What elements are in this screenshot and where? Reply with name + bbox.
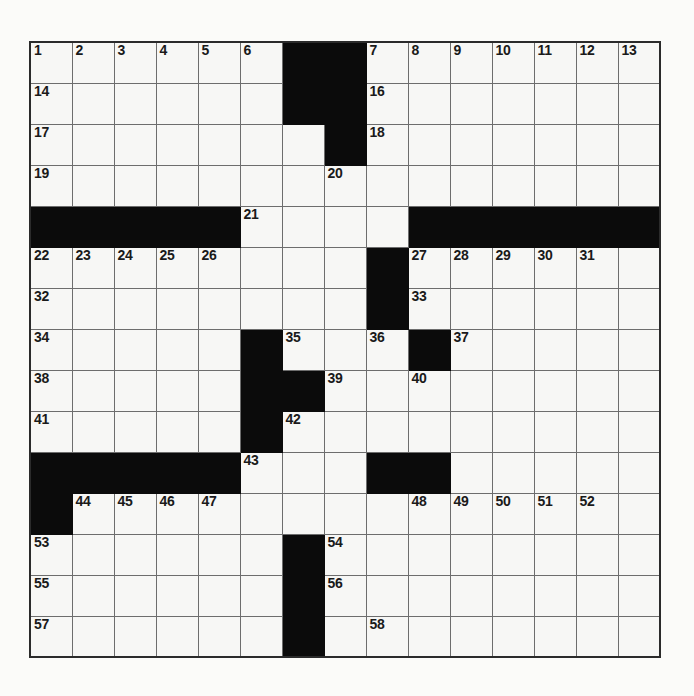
crossword-cell[interactable]	[576, 288, 618, 329]
crossword-cell[interactable]	[618, 411, 660, 452]
crossword-cell[interactable]	[534, 288, 576, 329]
crossword-cell[interactable]: 38	[30, 370, 72, 411]
crossword-cell[interactable]	[156, 329, 198, 370]
crossword-cell[interactable]	[324, 329, 366, 370]
crossword-cell[interactable]	[450, 452, 492, 493]
crossword-cell[interactable]: 47	[198, 493, 240, 534]
crossword-cell[interactable]	[156, 370, 198, 411]
crossword-cell[interactable]	[198, 329, 240, 370]
crossword-cell[interactable]	[492, 575, 534, 616]
crossword-cell[interactable]	[618, 329, 660, 370]
crossword-cell[interactable]: 50	[492, 493, 534, 534]
crossword-cell[interactable]	[450, 575, 492, 616]
crossword-cell[interactable]	[240, 616, 282, 657]
crossword-cell[interactable]	[576, 83, 618, 124]
crossword-cell[interactable]	[576, 575, 618, 616]
crossword-cell[interactable]: 6	[240, 42, 282, 83]
crossword-cell[interactable]	[324, 452, 366, 493]
crossword-cell[interactable]: 44	[72, 493, 114, 534]
crossword-cell[interactable]: 29	[492, 247, 534, 288]
crossword-cell[interactable]	[618, 452, 660, 493]
crossword-cell[interactable]	[198, 575, 240, 616]
crossword-cell[interactable]: 14	[30, 83, 72, 124]
crossword-cell[interactable]	[198, 616, 240, 657]
crossword-cell[interactable]: 8	[408, 42, 450, 83]
crossword-cell[interactable]	[72, 124, 114, 165]
crossword-cell[interactable]	[324, 616, 366, 657]
crossword-cell[interactable]	[156, 83, 198, 124]
crossword-cell[interactable]: 3	[114, 42, 156, 83]
crossword-cell[interactable]	[72, 575, 114, 616]
crossword-cell[interactable]: 35	[282, 329, 324, 370]
crossword-cell[interactable]	[618, 247, 660, 288]
crossword-cell[interactable]	[240, 124, 282, 165]
crossword-cell[interactable]	[240, 288, 282, 329]
crossword-cell[interactable]	[534, 83, 576, 124]
crossword-cell[interactable]	[618, 83, 660, 124]
crossword-cell[interactable]	[450, 288, 492, 329]
crossword-cell[interactable]	[618, 493, 660, 534]
crossword-cell[interactable]: 32	[30, 288, 72, 329]
crossword-cell[interactable]	[492, 452, 534, 493]
crossword-cell[interactable]	[114, 329, 156, 370]
crossword-cell[interactable]	[324, 288, 366, 329]
crossword-cell[interactable]	[198, 124, 240, 165]
crossword-grid[interactable]: 1234567891011121314161718192021222324252…	[29, 41, 661, 658]
crossword-cell[interactable]	[576, 124, 618, 165]
crossword-cell[interactable]	[282, 247, 324, 288]
crossword-cell[interactable]	[114, 370, 156, 411]
crossword-cell[interactable]	[408, 124, 450, 165]
crossword-cell[interactable]: 17	[30, 124, 72, 165]
crossword-cell[interactable]	[534, 165, 576, 206]
crossword-cell[interactable]	[282, 165, 324, 206]
crossword-cell[interactable]	[282, 206, 324, 247]
crossword-cell[interactable]	[366, 206, 408, 247]
crossword-cell[interactable]	[576, 370, 618, 411]
crossword-cell[interactable]	[576, 616, 618, 657]
crossword-cell[interactable]	[114, 124, 156, 165]
crossword-cell[interactable]	[114, 411, 156, 452]
crossword-cell[interactable]	[492, 329, 534, 370]
crossword-cell[interactable]: 34	[30, 329, 72, 370]
crossword-cell[interactable]	[618, 124, 660, 165]
crossword-cell[interactable]	[492, 165, 534, 206]
crossword-cell[interactable]	[198, 370, 240, 411]
crossword-cell[interactable]	[534, 452, 576, 493]
crossword-cell[interactable]: 51	[534, 493, 576, 534]
crossword-cell[interactable]: 43	[240, 452, 282, 493]
crossword-cell[interactable]	[534, 575, 576, 616]
crossword-cell[interactable]: 22	[30, 247, 72, 288]
crossword-cell[interactable]: 57	[30, 616, 72, 657]
crossword-cell[interactable]: 12	[576, 42, 618, 83]
crossword-cell[interactable]: 13	[618, 42, 660, 83]
crossword-cell[interactable]	[576, 329, 618, 370]
crossword-cell[interactable]	[114, 575, 156, 616]
crossword-cell[interactable]	[72, 165, 114, 206]
crossword-cell[interactable]	[492, 288, 534, 329]
crossword-cell[interactable]	[72, 370, 114, 411]
crossword-cell[interactable]	[408, 83, 450, 124]
crossword-cell[interactable]	[156, 575, 198, 616]
crossword-cell[interactable]	[534, 411, 576, 452]
crossword-cell[interactable]	[618, 165, 660, 206]
crossword-cell[interactable]	[114, 534, 156, 575]
crossword-cell[interactable]	[72, 616, 114, 657]
crossword-cell[interactable]	[282, 493, 324, 534]
crossword-cell[interactable]	[618, 534, 660, 575]
crossword-cell[interactable]	[240, 575, 282, 616]
crossword-cell[interactable]	[72, 329, 114, 370]
crossword-cell[interactable]: 37	[450, 329, 492, 370]
crossword-cell[interactable]: 4	[156, 42, 198, 83]
crossword-cell[interactable]	[240, 83, 282, 124]
crossword-cell[interactable]	[618, 370, 660, 411]
crossword-cell[interactable]	[198, 165, 240, 206]
crossword-cell[interactable]: 1	[30, 42, 72, 83]
crossword-cell[interactable]: 41	[30, 411, 72, 452]
crossword-cell[interactable]	[450, 370, 492, 411]
crossword-cell[interactable]: 5	[198, 42, 240, 83]
crossword-cell[interactable]	[156, 124, 198, 165]
crossword-cell[interactable]	[492, 616, 534, 657]
crossword-cell[interactable]	[450, 124, 492, 165]
crossword-cell[interactable]	[324, 493, 366, 534]
crossword-cell[interactable]: 10	[492, 42, 534, 83]
